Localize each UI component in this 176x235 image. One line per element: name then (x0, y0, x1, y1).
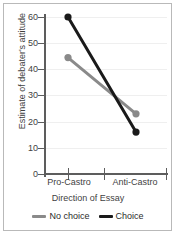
legend-swatch-choice (99, 215, 113, 218)
x-axis-title: Direction of Essay (0, 193, 176, 203)
chart-legend: No choice Choice (0, 211, 176, 221)
legend-item-no-choice: No choice (32, 211, 89, 221)
y-axis-title: Estimate of debater's attitude (17, 0, 27, 146)
legend-swatch-no-choice (32, 215, 46, 218)
plot-area: 60 50 40 30 20 10 0 Pro-Castro Anti-Cast… (0, 0, 176, 235)
legend-label-choice: Choice (116, 211, 144, 221)
data-point-choice-anti-castro (132, 129, 139, 136)
chart-figure: 60 50 40 30 20 10 0 Pro-Castro Anti-Cast… (0, 0, 176, 235)
data-point-no-choice-anti-castro (132, 110, 139, 117)
legend-label-no-choice: No choice (49, 211, 89, 221)
data-point-choice-pro-castro (64, 13, 71, 20)
data-point-no-choice-pro-castro (64, 54, 71, 61)
series-line-choice (68, 17, 136, 132)
series-line-no-choice (68, 58, 136, 114)
legend-item-choice: Choice (99, 211, 144, 221)
